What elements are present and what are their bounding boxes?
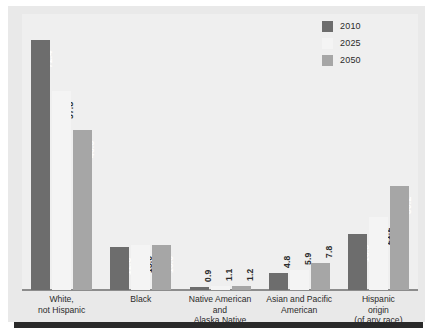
chart-figure: 201020252050 72.457.846.312.613.013.00.9… (0, 0, 432, 336)
x-axis-category-labels: White,not HispanicBlackNative American a… (22, 294, 418, 336)
category-label-line: Hispanic (339, 294, 418, 305)
bar-group (348, 14, 409, 290)
bottom-rule (14, 322, 423, 328)
category-label-line: White, (22, 294, 101, 305)
bar-2025[interactable] (369, 217, 388, 290)
bar-2025[interactable] (211, 286, 230, 290)
category-label-line: not Hispanic (22, 305, 101, 316)
category-label: Native American andAlaska Native (180, 294, 259, 326)
category-label-line: Black (101, 294, 180, 305)
bar-2010[interactable] (31, 40, 50, 290)
bar-2050[interactable] (152, 245, 171, 290)
bar-group (190, 14, 251, 290)
category-label-line: Native American and (180, 294, 259, 315)
category-label-line: Asian and Pacific (260, 294, 339, 305)
bar-2010[interactable] (190, 287, 209, 290)
bar-group (31, 14, 92, 290)
bar-2025[interactable] (290, 270, 309, 290)
bar-2050[interactable] (390, 186, 409, 290)
bar-2010[interactable] (269, 273, 288, 290)
bar-2050[interactable] (232, 286, 251, 290)
category-label-line: origin (339, 305, 418, 316)
category-label: Black (101, 294, 180, 305)
bar-2010[interactable] (110, 247, 129, 290)
category-label: Asian and PacificAmerican (260, 294, 339, 315)
bars-layer: 72.457.846.312.613.013.00.91.11.24.85.97… (22, 14, 418, 290)
category-label-line: American (260, 305, 339, 316)
bar-2025[interactable] (52, 91, 71, 290)
category-label: White,not Hispanic (22, 294, 101, 315)
bar-2025[interactable] (131, 245, 150, 290)
bar-2010[interactable] (348, 234, 367, 290)
bar-group (110, 14, 171, 290)
category-label: Hispanicorigin(of any race) (339, 294, 418, 326)
bar-2050[interactable] (73, 130, 92, 290)
bar-2050[interactable] (311, 263, 330, 290)
bar-group (269, 14, 330, 290)
